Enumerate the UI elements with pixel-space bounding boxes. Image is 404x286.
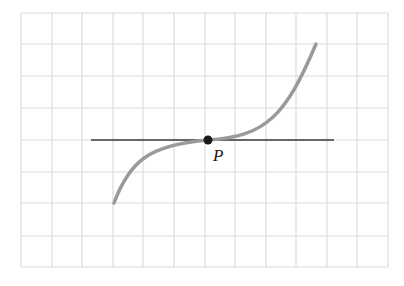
tangent-diagram: P (0, 0, 404, 286)
point-p-label: P (212, 146, 223, 165)
point-p (204, 136, 213, 145)
cubic-curve (114, 44, 316, 203)
